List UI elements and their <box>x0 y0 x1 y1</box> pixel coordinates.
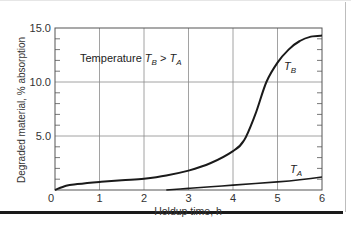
x-tick-5: 5 <box>274 192 280 204</box>
line-chart: 15.0 10.0 5.0 0 1 2 3 4 5 6 Holdup time,… <box>0 0 351 225</box>
x-tick-0: 0 <box>48 192 54 204</box>
y-tick-5: 5.0 <box>36 130 51 142</box>
x-tick-2: 2 <box>141 192 147 204</box>
y-tick-10: 10.0 <box>30 76 51 88</box>
series-ta-label: TA <box>290 163 302 178</box>
y-tick-15: 15.0 <box>30 22 51 34</box>
x-tick-6: 6 <box>319 192 325 204</box>
temperature-annotation: Temperature TB > TA <box>80 52 182 67</box>
series-ta-line <box>166 177 322 190</box>
y-axis-title: Degraded material, % absorption <box>16 37 27 183</box>
x-tick-1: 1 <box>96 192 102 204</box>
series-tb-label: TB <box>284 60 297 75</box>
x-axis-title: Holdup time, h <box>154 205 222 217</box>
x-tick-4: 4 <box>230 192 236 204</box>
x-tick-3: 3 <box>185 192 191 204</box>
